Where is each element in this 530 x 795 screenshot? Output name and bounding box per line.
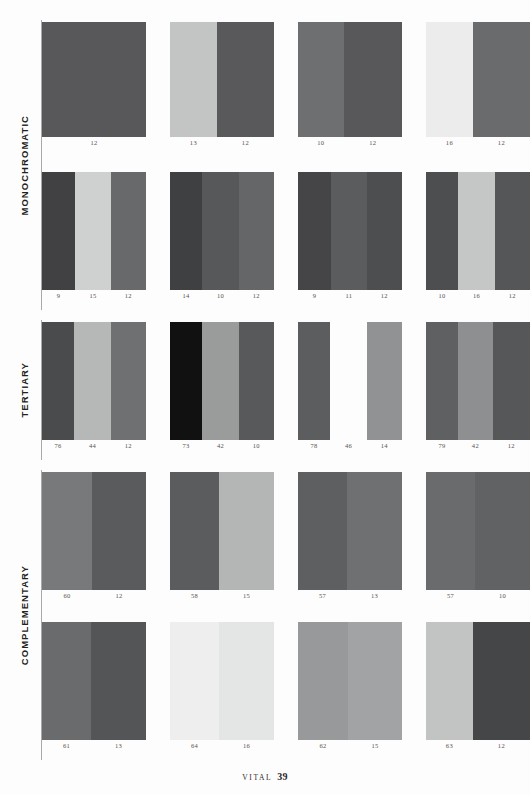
swatch-band [170,622,219,740]
section-label-rail: MONOCHROMATICTERTIARYCOMPLEMENTARY [0,0,42,795]
swatch-color-number: 12 [111,442,146,449]
swatch-band [111,322,146,440]
color-swatch[interactable]: 141012 [170,172,274,304]
section-label-monochromatic: MONOCHROMATIC [0,20,42,310]
swatch-label-row: 764412 [42,440,146,454]
color-swatch[interactable]: 5710 [426,472,530,604]
swatch-band [458,172,494,290]
section-label-complementary: COMPLEMENTARY [0,470,42,760]
swatch-color-number: 12 [493,442,530,449]
swatch-band [219,622,274,740]
color-swatch[interactable]: 794212 [426,322,530,454]
swatch-band [367,172,402,290]
swatch-color-number: 10 [475,592,530,599]
swatch-color-number: 9 [298,292,331,299]
swatch-color-number: 61 [42,742,91,749]
swatch-band [473,22,530,137]
swatch-band [239,172,274,290]
swatch-color-number: 16 [219,742,274,749]
swatch-band [344,22,402,137]
swatch-band [330,322,366,440]
swatch-band [42,22,146,137]
color-swatch[interactable]: 6416 [170,622,274,754]
color-swatch[interactable]: 12 [42,22,146,151]
swatch-band [475,472,530,590]
color-swatch[interactable]: 1012 [298,22,402,151]
color-swatch[interactable]: 91512 [42,172,146,304]
swatch-color-number: 15 [348,742,402,749]
swatch-color-number: 62 [298,742,348,749]
swatch-bands [298,172,402,290]
color-swatch[interactable]: 5815 [170,472,274,604]
swatch-bands [298,22,402,137]
color-swatch[interactable]: 6312 [426,622,530,754]
swatch-color-number: 44 [74,442,110,449]
swatch-band [75,172,110,290]
swatch-color-number: 9 [42,292,75,299]
swatch-band [217,22,274,137]
swatch-row: 9151214101291112101612 [42,172,530,304]
swatch-bands [426,622,530,740]
swatch-band [367,322,402,440]
swatch-band [298,472,347,590]
color-swatch[interactable]: 101612 [426,172,530,304]
swatch-band [219,472,274,590]
color-swatch[interactable]: 5713 [298,472,402,604]
swatch-color-number: 46 [330,442,366,449]
swatch-band [298,172,331,290]
swatch-band [42,622,91,740]
swatch-color-number: 14 [170,292,202,299]
color-swatch[interactable]: 1612 [426,22,530,151]
swatch-row: 6012581557135710 [42,472,530,604]
swatch-color-number: 12 [367,292,402,299]
swatch-band [426,22,473,137]
swatch-band [74,322,110,440]
swatch-band [92,472,146,590]
swatch-band [298,622,348,740]
swatch-band [170,22,217,137]
swatch-band [298,322,330,440]
swatch-label-row: 6312 [426,740,530,754]
swatch-bands [426,472,530,590]
swatch-color-number: 76 [42,442,74,449]
swatch-color-number: 78 [298,442,330,449]
color-swatch-page: MONOCHROMATICTERTIARYCOMPLEMENTARY 12131… [0,0,530,795]
swatch-color-number: 79 [426,442,458,449]
color-swatch[interactable]: 734210 [170,322,274,454]
swatch-band [473,622,530,740]
swatch-label-row: 794212 [426,440,530,454]
swatch-band [170,172,202,290]
swatch-color-number: 12 [217,139,274,146]
swatch-bands [426,22,530,137]
swatch-bands [170,172,274,290]
swatch-label-row: 5815 [170,590,274,604]
swatch-bands [426,172,530,290]
swatch-bands [426,322,530,440]
swatch-band [426,472,475,590]
swatch-color-number: 10 [239,442,274,449]
swatch-label-row: 1012 [298,137,402,151]
swatch-color-number: 12 [111,292,146,299]
swatch-color-number: 12 [92,592,146,599]
swatch-label-row: 6416 [170,740,274,754]
swatch-bands [298,322,402,440]
color-swatch[interactable]: 6113 [42,622,146,754]
color-swatch[interactable]: 6012 [42,472,146,604]
swatch-color-number: 12 [473,742,530,749]
swatch-color-number: 12 [495,292,530,299]
swatch-row: 12131210121612 [42,22,530,151]
color-swatch[interactable]: 91112 [298,172,402,304]
color-swatch[interactable]: 1312 [170,22,274,151]
color-swatch[interactable]: 6215 [298,622,402,754]
color-swatch[interactable]: 764412 [42,322,146,454]
swatch-bands [170,22,274,137]
swatch-bands [42,22,146,137]
swatch-color-number: 63 [426,742,473,749]
section-label-text: MONOCHROMATIC [19,115,30,216]
footer-page-number: 39 [277,771,287,782]
swatch-label-row: 1312 [170,137,274,151]
swatch-band [298,22,344,137]
swatch-color-number: 15 [75,292,110,299]
color-swatch[interactable]: 784614 [298,322,402,454]
swatch-band [111,172,146,290]
